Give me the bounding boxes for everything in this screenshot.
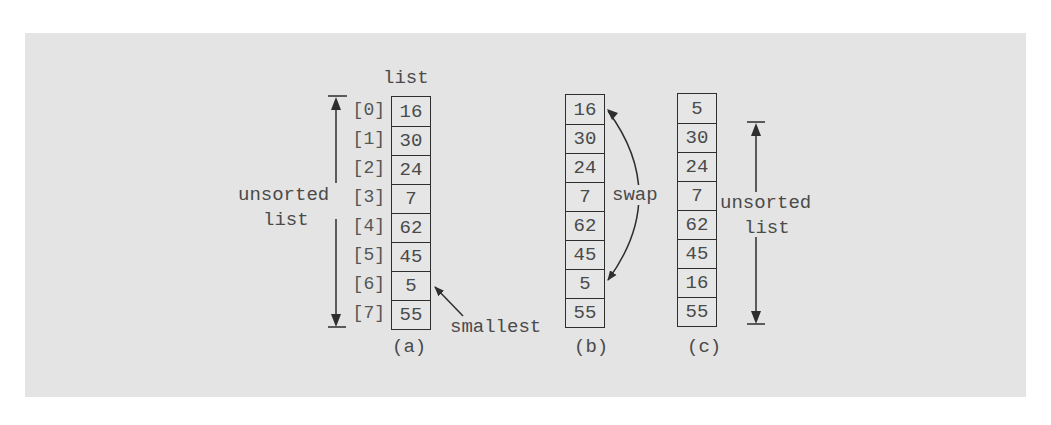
index-label: [1]	[349, 129, 385, 149]
array-column-b: 16 30 24 7 62 45 5 55	[565, 94, 605, 328]
right-range-label-line2: list	[744, 218, 790, 238]
array-cell: 24	[566, 153, 604, 182]
array-cell: 55	[392, 300, 430, 329]
array-cell: 55	[566, 298, 604, 327]
left-range-label-line1: unsorted	[238, 185, 329, 205]
array-cell: 24	[392, 155, 430, 184]
array-cell: 45	[678, 239, 716, 268]
array-column-c: 5 30 24 7 62 45 16 55	[677, 93, 717, 327]
array-cell: 30	[678, 123, 716, 152]
array-cell: 62	[678, 210, 716, 239]
swap-label: swap	[611, 185, 659, 205]
array-cell: 16	[678, 268, 716, 297]
smallest-label: smallest	[450, 317, 541, 337]
array-cell: 5	[566, 269, 604, 298]
array-cell: 62	[392, 213, 430, 242]
arrows-overlay	[0, 0, 1051, 425]
caption-b: (b)	[574, 337, 608, 357]
array-cell: 45	[392, 242, 430, 271]
array-cell: 24	[678, 152, 716, 181]
array-name-label: list	[383, 68, 429, 88]
array-cell: 16	[392, 97, 430, 126]
left-range-label-line2: list	[263, 210, 309, 230]
array-column-a: 16 30 24 7 62 45 5 55	[391, 96, 431, 330]
array-cell: 45	[566, 240, 604, 269]
array-cell: 7	[566, 182, 604, 211]
array-cell: 30	[566, 124, 604, 153]
index-label: [2]	[349, 158, 385, 178]
array-cell: 30	[392, 126, 430, 155]
array-cell: 5	[678, 94, 716, 123]
smallest-pointer-arrow	[435, 287, 463, 316]
array-cell: 55	[678, 297, 716, 326]
array-cell: 62	[566, 211, 604, 240]
array-cell: 5	[392, 271, 430, 300]
caption-c: (c)	[687, 337, 721, 357]
index-label: [5]	[349, 245, 385, 265]
array-cell: 16	[566, 95, 604, 124]
index-label: [7]	[349, 303, 385, 323]
left-range-arrow	[328, 96, 347, 327]
index-label: [3]	[349, 187, 385, 207]
index-label: [6]	[349, 274, 385, 294]
array-cell: 7	[678, 181, 716, 210]
caption-a: (a)	[392, 337, 426, 357]
index-label: [4]	[349, 216, 385, 236]
right-range-label-line1: unsorted	[719, 193, 812, 213]
array-cell: 7	[392, 184, 430, 213]
index-label: [0]	[349, 100, 385, 120]
